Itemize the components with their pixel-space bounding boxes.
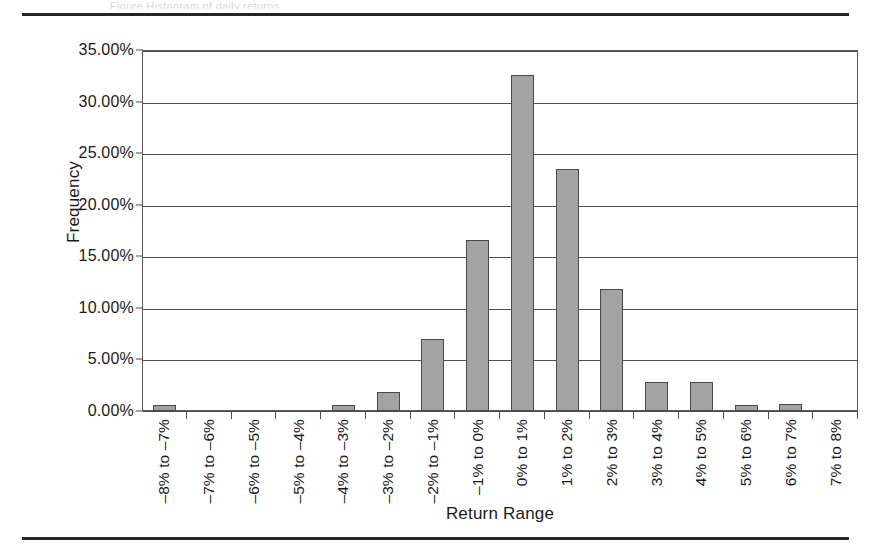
- bar-slot: [411, 50, 456, 411]
- x-axis-tick-label: –6% to –5%: [245, 419, 263, 504]
- histogram-figure: 35.00%30.00%25.00%20.00%15.00%10.00%5.00…: [0, 20, 871, 532]
- bar: [421, 339, 444, 411]
- x-axis-tick-mark: [500, 411, 545, 419]
- bar-slot: [232, 50, 277, 411]
- x-axis-tick-label: –2% to –1%: [424, 419, 442, 504]
- bar-slot: [142, 50, 187, 411]
- x-axis-tick-mark: [813, 411, 858, 419]
- bar-slot: [187, 50, 232, 411]
- bar: [779, 404, 802, 411]
- y-axis-tick-label: 15.00%: [79, 247, 134, 265]
- bar-series: [142, 50, 858, 411]
- bar-slot: [455, 50, 500, 411]
- bar-slot: [321, 50, 366, 411]
- bar: [600, 289, 623, 411]
- bar-slot: [366, 50, 411, 411]
- bar-slot: [276, 50, 321, 411]
- x-axis-title: Return Range: [142, 504, 858, 524]
- x-axis-tick-label: 0% to 1%: [513, 419, 531, 486]
- x-axis-tick-label: 3% to 4%: [648, 419, 666, 486]
- y-axis-tick-label: 25.00%: [79, 144, 134, 162]
- bar-slot: [545, 50, 590, 411]
- x-axis-tick-label: 6% to 7%: [782, 419, 800, 486]
- y-axis-tick-label: 20.00%: [79, 196, 134, 214]
- x-axis-tick-label: 5% to 6%: [737, 419, 755, 486]
- bar-slot: [500, 50, 545, 411]
- bar: [466, 240, 489, 411]
- bar: [511, 75, 534, 411]
- bar-slot: [769, 50, 814, 411]
- top-horizontal-rule: [22, 13, 849, 16]
- y-axis-tick-mark: [136, 153, 143, 154]
- bar: [645, 382, 668, 411]
- y-axis-tick-mark: [136, 256, 143, 257]
- bar: [690, 382, 713, 411]
- y-axis-tick-mark: [136, 101, 143, 102]
- bar: [556, 169, 579, 411]
- bar-slot: [679, 50, 724, 411]
- bar-slot: [724, 50, 769, 411]
- y-axis-title: Frequency: [64, 122, 84, 282]
- x-axis-tick-mark: [724, 411, 769, 419]
- x-axis-tick-label: –3% to –2%: [379, 419, 397, 504]
- bar-slot: [590, 50, 635, 411]
- bar: [377, 392, 400, 411]
- x-axis-tick-label: –8% to –7%: [155, 419, 173, 504]
- y-axis-tick-mark: [136, 307, 143, 308]
- x-axis-tick-label: 4% to 5%: [692, 419, 710, 486]
- y-axis-tick-label: 35.00%: [79, 41, 134, 59]
- y-axis-tick-label: 5.00%: [88, 350, 134, 368]
- y-axis-tick-label: 10.00%: [79, 299, 134, 317]
- y-axis-tick-mark: [136, 359, 143, 360]
- y-axis-tick-label: 0.00%: [88, 402, 134, 420]
- x-axis-tick-mark: [634, 411, 679, 419]
- x-axis-tick-label: 7% to 8%: [827, 419, 845, 486]
- x-axis-tick-label: 2% to 3%: [603, 419, 621, 486]
- x-axis-tick-label: –4% to –3%: [334, 419, 352, 504]
- x-axis-tick-label: –5% to –4%: [290, 419, 308, 504]
- cropped-caption-fragment: Figure Histogram of daily returns: [110, 0, 410, 9]
- x-axis-tick-mark: [455, 411, 500, 419]
- x-axis-tick-label: –7% to –6%: [200, 419, 218, 504]
- bar-slot: [813, 50, 858, 411]
- x-axis-tick-label: –1% to 0%: [469, 419, 487, 495]
- x-axis-tick-mark: [590, 411, 635, 419]
- y-axis-tick-mark: [136, 204, 143, 205]
- x-axis-tick-mark: [679, 411, 724, 419]
- x-axis-tick-mark: [769, 411, 814, 419]
- bar-slot: [634, 50, 679, 411]
- x-axis-tick-label: 1% to 2%: [558, 419, 576, 486]
- x-axis-tick-mark: [545, 411, 590, 419]
- bottom-horizontal-rule: [22, 537, 849, 540]
- y-axis-tick-mark: [136, 50, 143, 51]
- y-axis-tick-label: 30.00%: [79, 93, 134, 111]
